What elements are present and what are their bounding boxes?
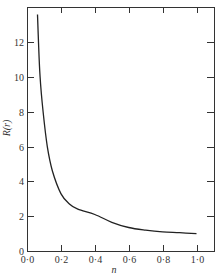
x-tick-label: 0·2: [55, 254, 68, 265]
x-tick-label: 1·0: [191, 254, 204, 265]
x-axis-label: n: [112, 264, 117, 275]
y-tick-label: 6: [19, 142, 24, 153]
x-tick-label: 0·6: [123, 254, 136, 265]
y-tick-label: 12: [14, 37, 24, 48]
plot-frame: [28, 8, 215, 252]
y-axis-label: R(r): [1, 119, 13, 137]
y-axis-ticks: 024681012: [14, 37, 214, 257]
y-tick-label: 0: [19, 246, 24, 257]
x-tick-label: 0·8: [157, 254, 170, 265]
data-curve: [38, 14, 197, 233]
x-tick-label: 0·4: [89, 254, 102, 265]
line-chart: 0·00·20·40·60·81·0 024681012 n R(r): [0, 0, 223, 278]
x-axis-ticks: 0·00·20·40·60·81·0: [21, 7, 204, 265]
y-tick-label: 2: [19, 211, 24, 222]
y-tick-label: 4: [19, 176, 24, 187]
y-tick-label: 8: [19, 107, 24, 118]
y-tick-label: 10: [14, 72, 24, 83]
